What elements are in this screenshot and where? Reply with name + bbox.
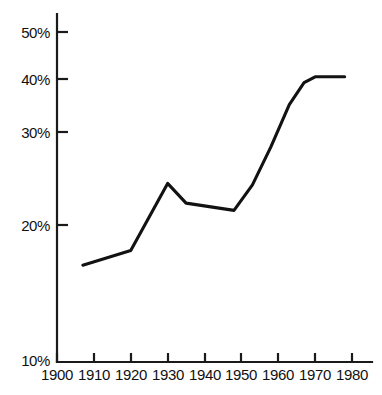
y-tick-label-50: 50% xyxy=(6,25,50,40)
data-series-line xyxy=(83,77,345,265)
y-tick-label-20: 20% xyxy=(6,218,50,233)
chart-plot-area xyxy=(0,0,382,395)
line-chart: 50% 40% 30% 20% 10% 1900 1910 1920 1930 … xyxy=(0,0,382,395)
y-tick-label-40: 40% xyxy=(6,72,50,87)
x-tick-label-1980: 1980 xyxy=(324,367,380,382)
y-tick-label-30: 30% xyxy=(6,125,50,140)
